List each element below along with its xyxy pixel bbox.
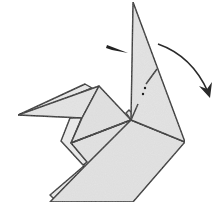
- neck-point: [131, 2, 185, 142]
- diagram-canvas: [0, 0, 213, 211]
- paper-model: [18, 2, 185, 202]
- origami-diagram: origami crane/bird fold step: [0, 0, 213, 211]
- push-in-arrow-icon: [106, 45, 128, 53]
